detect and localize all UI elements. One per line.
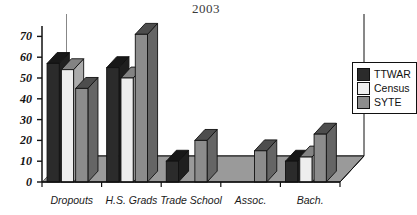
bar <box>135 23 157 182</box>
legend-swatch-icon <box>357 96 370 109</box>
y-axis-tick-label: 50 <box>6 71 32 86</box>
y-axis-tick-label: 70 <box>6 29 32 44</box>
legend-swatch-icon <box>357 82 370 95</box>
bar <box>314 123 336 182</box>
y-axis-tick-label: 60 <box>6 50 32 65</box>
legend-item-label: Census <box>374 83 410 94</box>
legend-item: SYTE <box>357 95 411 109</box>
chart-legend: TTWARCensusSYTE <box>352 62 417 114</box>
y-axis-tick-label: 0 <box>6 175 32 190</box>
x-axis-tick-label: Dropouts <box>50 194 93 206</box>
bar <box>195 129 217 182</box>
legend-swatch-icon <box>357 68 370 81</box>
legend-item: TTWAR <box>357 67 411 81</box>
bar <box>76 77 98 182</box>
y-axis-tick-label: 20 <box>6 133 32 148</box>
y-axis-tick-label: 30 <box>6 112 32 127</box>
y-axis-tick-label: 10 <box>6 154 32 169</box>
x-axis-tick-label: Trade School <box>160 194 222 206</box>
y-axis-tick-label: 40 <box>6 91 32 106</box>
x-axis-tick-label: Bach. <box>297 194 324 206</box>
legend-item-label: SYTE <box>374 97 401 108</box>
plot-area: 010203040506070 <box>0 14 412 189</box>
legend-item: Census <box>357 81 411 95</box>
legend-item-label: TTWAR <box>374 69 411 80</box>
chart-svg <box>0 14 412 189</box>
x-axis-tick-label: Assoc. <box>235 194 267 206</box>
x-axis-tick-label: H.S. Grads <box>105 194 157 206</box>
